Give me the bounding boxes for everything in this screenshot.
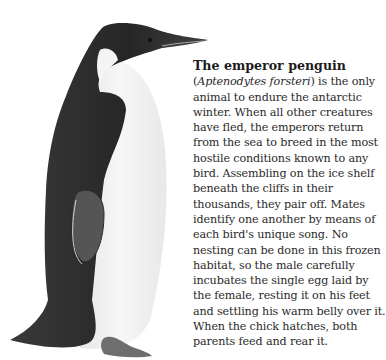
article-line: the female, resting it on his feet	[193, 288, 373, 303]
article-line: from the sea to breed in the most	[193, 135, 373, 150]
article-title: The emperor penguin	[193, 58, 346, 73]
article-line: parents feed and rear it.	[193, 334, 373, 349]
article-line: incubates the single egg laid by	[193, 273, 373, 288]
article-line: thousands, they pair off. Mates	[193, 197, 373, 212]
article-text: The emperor penguin (Aptenodytes forster…	[193, 58, 373, 350]
article-line: animal to endure the antarctic	[193, 90, 373, 105]
article-line: bird. Assembling on the ice shelf	[193, 166, 373, 181]
article-line: have fled, the emperors return	[193, 120, 373, 135]
article-line: beneath the cliffs in their	[193, 181, 373, 196]
article-line: and settling his warm belly over it.	[193, 304, 373, 319]
scientific-name: Aptenodytes forsteri	[197, 75, 310, 88]
article-line: winter. When all other creatures	[193, 105, 373, 120]
article-line-text: is the only	[318, 75, 375, 88]
article-title-line: The emperor penguin	[193, 58, 373, 74]
article-line: (Aptenodytes forsteri) is the only	[193, 74, 373, 89]
article-line: nesting can be done in this frozen	[193, 243, 373, 258]
article-line: hostile conditions known to any	[193, 151, 373, 166]
article-line: each bird's unique song. No	[193, 227, 373, 242]
article-line: habitat, so the male carefully	[193, 258, 373, 273]
article-line: identify one another by means of	[193, 212, 373, 227]
article-line: When the chick hatches, both	[193, 319, 373, 334]
